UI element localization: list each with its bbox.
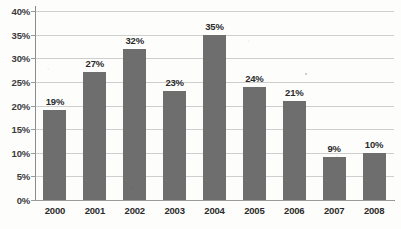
bar-2002[interactable] [123,49,146,200]
y-axis-label: 25% [0,76,30,87]
bar-value-label: 35% [195,21,235,32]
gridline [35,11,394,12]
x-axis-label-2004: 2004 [193,205,237,216]
y-axis-tick [31,129,36,130]
bar-2005[interactable] [243,87,266,200]
x-axis-label-2008: 2008 [352,205,396,216]
x-axis-label-2001: 2001 [73,205,117,216]
bar-2004[interactable] [203,35,226,200]
bar-2008[interactable] [363,153,386,200]
x-axis-label-2005: 2005 [232,205,276,216]
bar-2007[interactable] [323,157,346,200]
y-axis-label: 0% [0,195,30,206]
y-axis-tick [31,153,36,154]
y-axis-label: 15% [0,124,30,135]
bar-value-label: 10% [354,139,394,150]
bar-2006[interactable] [283,101,306,200]
y-axis-label: 35% [0,29,30,40]
bar-value-label: 23% [155,77,195,88]
x-axis-label-2002: 2002 [113,205,157,216]
y-axis-label: 10% [0,147,30,158]
y-axis-label: 30% [0,53,30,64]
y-axis-label: 40% [0,6,30,17]
bar-value-label: 27% [75,58,115,69]
y-axis-tick [31,11,36,12]
x-axis-label-2003: 2003 [153,205,197,216]
y-axis-tick [31,58,36,59]
bar-2003[interactable] [163,91,186,200]
y-axis-label: 5% [0,171,30,182]
bar-2001[interactable] [83,72,106,200]
scan-speck [305,73,307,75]
x-axis-label-2006: 2006 [272,205,316,216]
x-axis-label-2000: 2000 [33,205,77,216]
bar-value-label: 19% [35,96,75,107]
bar-value-label: 24% [234,73,274,84]
plot-area [35,11,394,200]
y-axis-tick [31,176,36,177]
gridline [35,200,394,201]
y-axis-tick [31,35,36,36]
bar-value-label: 32% [115,35,155,46]
y-axis-tick [31,200,36,201]
y-axis-label: 20% [0,100,30,111]
bar-value-label: 9% [314,143,354,154]
bar-value-label: 21% [274,87,314,98]
y-axis-tick [31,82,36,83]
bar-2000[interactable] [43,110,66,200]
bar-chart: 0%5%10%15%20%25%30%35%40% 20002001200220… [0,0,401,229]
x-axis-label-2007: 2007 [312,205,356,216]
